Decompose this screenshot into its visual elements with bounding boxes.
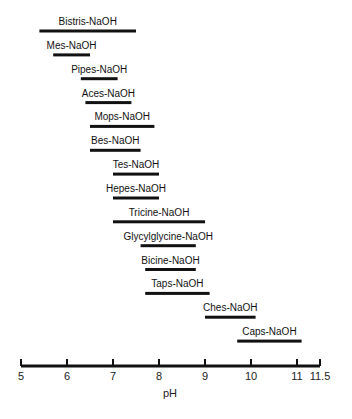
buffer-range-bar [90, 149, 141, 152]
buffer-label: Caps-NaOH [242, 326, 296, 337]
buffer-range-bar [113, 220, 205, 223]
buffer-range-bar [141, 244, 196, 247]
buffer-label: Tricine-NaOH [129, 207, 190, 218]
buffer-range-item: Bicine-NaOH [141, 255, 199, 272]
buffer-label: Mops-NaOH [94, 111, 150, 122]
x-tick-label: 11 [291, 370, 302, 382]
buffer-range-bar [113, 197, 159, 200]
x-tick-label: 5 [18, 370, 24, 382]
x-tick-label: 9 [202, 370, 208, 382]
buffer-range-bar [145, 268, 196, 271]
buffer-label: Bicine-NaOH [141, 255, 199, 266]
buffer-label: Pipes-NaOH [71, 64, 127, 75]
buffer-range-item: Caps-NaOH [237, 326, 301, 343]
buffer-range-bar [90, 125, 154, 128]
x-tick-label: 7 [110, 370, 116, 382]
buffer-range-bar [53, 53, 90, 56]
chart-canvas: Bistris-NaOHMes-NaOHPipes-NaOHAces-NaOHM… [0, 0, 352, 419]
buffer-range-item: Tes-NaOH [113, 159, 160, 176]
buffer-label: Bistris-NaOH [59, 16, 117, 27]
buffer-range-bar [113, 173, 159, 176]
buffer-range-item: Bes-NaOH [90, 135, 141, 152]
x-tick-label: 10 [245, 370, 257, 382]
buffer-range-item: Pipes-NaOH [71, 64, 127, 81]
buffer-range-bar [145, 292, 209, 295]
buffer-range-bar [81, 77, 118, 80]
buffer-label: Tes-NaOH [113, 159, 160, 170]
buffer-range-item: Ches-NaOH [203, 302, 257, 319]
buffer-range-item: Mes-NaOH [47, 40, 97, 57]
buffer-label: Mes-NaOH [47, 40, 97, 51]
x-tick-label: 6 [64, 370, 70, 382]
buffer-label: Taps-NaOH [151, 278, 203, 289]
bars-layer: Bistris-NaOHMes-NaOHPipes-NaOHAces-NaOHM… [39, 16, 301, 343]
buffer-range-item: Bistris-NaOH [39, 16, 136, 33]
buffer-range-bar [237, 340, 301, 343]
x-axis-title: pH [163, 387, 177, 399]
x-tick-label: 11.5 [310, 370, 331, 382]
buffer-label: Hepes-NaOH [106, 183, 166, 194]
buffer-range-item: Mops-NaOH [90, 111, 154, 128]
buffer-range-item: Hepes-NaOH [106, 183, 166, 200]
x-tick-label: 8 [156, 370, 162, 382]
buffer-range-item: Aces-NaOH [82, 88, 135, 105]
buffer-label: Ches-NaOH [203, 302, 257, 313]
buffer-range-bar [205, 316, 256, 319]
buffer-range-item: Glycylglycine-NaOH [123, 231, 212, 248]
buffer-range-item: Taps-NaOH [145, 278, 209, 295]
buffer-ph-range-chart: Bistris-NaOHMes-NaOHPipes-NaOHAces-NaOHM… [0, 0, 352, 419]
buffer-range-bar [39, 30, 136, 33]
buffer-label: Bes-NaOH [91, 135, 139, 146]
buffer-label: Aces-NaOH [82, 88, 135, 99]
buffer-range-item: Tricine-NaOH [113, 207, 205, 224]
x-axis: 56789101111.5 [18, 359, 330, 382]
buffer-range-bar [85, 101, 131, 104]
buffer-label: Glycylglycine-NaOH [123, 231, 212, 242]
